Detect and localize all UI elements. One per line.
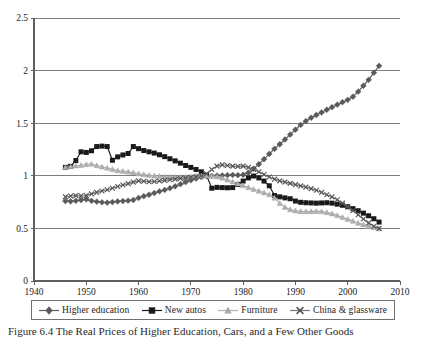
x-marker-icon	[290, 305, 310, 316]
x-tick-label: 2000	[338, 287, 357, 297]
line-chart-svg: 00.511.522.51940195019601970198019902000…	[0, 0, 428, 296]
legend-label-china-glassware: China & glassware	[313, 305, 387, 316]
legend-item-china-glassware: China & glassware	[290, 305, 387, 316]
x-tick-label: 1950	[77, 287, 96, 297]
chart-plot-area: 00.511.522.51940195019601970198019902000…	[0, 0, 428, 296]
diamond-marker-icon	[39, 305, 59, 316]
legend-item-furniture: Furniture	[218, 305, 277, 316]
triangle-marker-icon	[218, 305, 238, 316]
x-tick-label: 1960	[129, 287, 148, 297]
y-tick-label: 0.5	[16, 224, 28, 234]
x-tick-label: 1940	[25, 287, 44, 297]
series-higher-education	[62, 63, 382, 206]
x-tick-label: 1990	[286, 287, 305, 297]
y-tick-label: 1.5	[16, 119, 28, 129]
series-new-autos	[63, 144, 382, 225]
legend-item-new-autos: New autos	[142, 305, 206, 316]
y-tick-label: 0	[23, 276, 28, 286]
legend-label-new-autos: New autos	[165, 305, 206, 316]
legend-label-furniture: Furniture	[241, 305, 277, 316]
series-furniture	[63, 161, 382, 231]
figure-caption: Figure 6.4 The Real Prices of Higher Edu…	[8, 325, 422, 338]
figure-caption-clip: Figure 6.4 The Real Prices of Higher Edu…	[0, 325, 428, 339]
square-marker-icon	[142, 305, 162, 316]
figure-container: 00.511.522.51940195019601970198019902000…	[0, 0, 428, 339]
y-tick-label: 1	[23, 171, 28, 181]
series-line	[65, 66, 379, 203]
x-tick-label: 2010	[391, 287, 410, 297]
x-tick-label: 1970	[181, 287, 200, 297]
y-tick-label: 2	[23, 66, 28, 76]
chart-legend: Higher education New autos Furniture Chi…	[31, 300, 395, 320]
x-tick-label: 1980	[234, 287, 253, 297]
legend-label-higher-education: Higher education	[62, 305, 129, 316]
y-tick-label: 2.5	[16, 13, 28, 23]
legend-item-higher-education: Higher education	[39, 305, 129, 316]
